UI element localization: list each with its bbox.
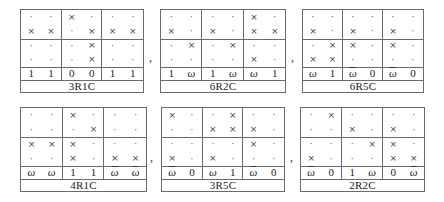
dot-mark xyxy=(42,152,63,168)
omega-bar-symbol: ω xyxy=(307,167,315,178)
dot-mark xyxy=(264,39,285,53)
dot-mark xyxy=(223,10,244,24)
dot-mark xyxy=(102,39,122,53)
omega-bar-symbol: ω xyxy=(389,68,397,79)
dot-mark xyxy=(125,137,146,152)
digit-value: 0 xyxy=(370,68,376,79)
cross-mark: × xyxy=(63,108,84,123)
omega-symbol: ω xyxy=(309,68,317,79)
mark-grid: ××××××××ω0ω1ω0 xyxy=(162,108,284,179)
value-cell: 1 xyxy=(223,166,243,180)
dot-mark xyxy=(403,10,423,24)
cross-mark: × xyxy=(383,123,404,139)
digit-value: 1 xyxy=(91,167,97,178)
cross-mark: × xyxy=(125,152,146,168)
cross-mark: × xyxy=(301,152,322,168)
dot-mark xyxy=(123,39,143,53)
dot-mark xyxy=(203,137,223,152)
dot-mark xyxy=(223,24,244,39)
digit-value: 1 xyxy=(110,68,116,79)
dot-mark xyxy=(41,39,61,53)
cross-mark: × xyxy=(322,108,343,123)
dot-mark xyxy=(84,152,105,168)
cross-mark: × xyxy=(383,152,404,168)
value-cell: 0 xyxy=(82,67,102,81)
dot-mark xyxy=(342,108,363,123)
dot-mark xyxy=(182,24,203,39)
dot-mark xyxy=(63,123,84,139)
mark-grid: ××××××××1ω1ωω1 xyxy=(161,10,285,80)
value-cell: 1 xyxy=(323,67,343,81)
cross-mark: × xyxy=(343,39,363,53)
value-cell: 1 xyxy=(21,67,41,81)
cross-mark: × xyxy=(21,24,41,39)
cross-mark: × xyxy=(342,123,363,139)
dot-mark xyxy=(403,24,423,39)
digit-value: 0 xyxy=(271,167,277,178)
digit-value: 0 xyxy=(189,167,195,178)
cross-mark: × xyxy=(264,24,285,39)
dot-mark xyxy=(182,123,202,139)
cross-mark: × xyxy=(82,24,102,39)
value-cell: ω xyxy=(42,166,63,180)
digit-value: 0 xyxy=(89,68,95,79)
dot-mark xyxy=(62,53,82,68)
dot-mark xyxy=(82,10,102,24)
dot-mark xyxy=(303,39,323,53)
digit-value: 0 xyxy=(69,68,75,79)
dot-mark xyxy=(264,137,284,152)
cross-mark: × xyxy=(323,39,343,53)
digit-value: 0 xyxy=(329,167,335,178)
dot-mark xyxy=(223,152,243,168)
dot-mark xyxy=(322,123,343,139)
cross-mark: × xyxy=(363,137,384,152)
value-cell: 1 xyxy=(161,67,182,81)
cross-mark: × xyxy=(42,137,63,152)
dot-mark xyxy=(223,137,243,152)
omega-bar-symbol: ω xyxy=(410,167,418,178)
dot-mark xyxy=(403,53,423,68)
separator-comma: , xyxy=(291,50,294,65)
cross-mark: × xyxy=(244,24,265,39)
cross-mark: × xyxy=(223,108,243,123)
omega-symbol: ω xyxy=(28,167,36,178)
omega-symbol: ω xyxy=(229,68,237,79)
value-cell: 1 xyxy=(123,67,143,81)
dot-mark xyxy=(342,137,363,152)
value-cell: ω xyxy=(104,166,125,180)
mark-grid: ××××××××ω01ω0ω xyxy=(301,108,424,179)
omega-symbol: ω xyxy=(48,167,56,178)
value-cell: 1 xyxy=(41,67,61,81)
table-caption: 3R1C xyxy=(21,80,143,92)
dot-mark xyxy=(21,53,41,68)
cross-mark: × xyxy=(244,10,265,24)
dot-mark xyxy=(182,53,203,68)
dot-mark xyxy=(202,53,223,68)
table-caption: 4R1C xyxy=(21,179,146,191)
digit-value: 1 xyxy=(350,167,356,178)
mark-grid: ××××××××ωω11ωω xyxy=(21,108,146,179)
mark-grid: ××××××××110011 xyxy=(21,10,143,80)
dot-mark xyxy=(264,123,284,139)
dot-mark xyxy=(383,53,403,68)
pattern-table-4r1c: ××××××××ωω11ωω4R1C xyxy=(20,107,147,192)
digit-value: 1 xyxy=(210,68,216,79)
value-cell: 1 xyxy=(102,67,122,81)
value-cell: 0 xyxy=(182,166,202,180)
dot-mark xyxy=(301,108,322,123)
value-cell: ω xyxy=(383,67,403,81)
omega-symbol: ω xyxy=(250,68,258,79)
table-caption: 3R5C xyxy=(162,179,284,191)
cross-mark: × xyxy=(62,10,82,24)
value-cell: ω xyxy=(21,166,42,180)
dot-mark xyxy=(323,24,343,39)
dot-mark xyxy=(41,10,61,24)
cross-mark: × xyxy=(41,24,61,39)
mark-grid: ××××××××ω1ω0ω0 xyxy=(303,10,423,80)
dot-mark xyxy=(363,39,383,53)
dot-mark xyxy=(161,10,182,24)
table-caption: 6R2C xyxy=(161,80,285,92)
dot-mark xyxy=(62,24,82,39)
dot-mark xyxy=(383,10,403,24)
dot-mark xyxy=(363,53,383,68)
